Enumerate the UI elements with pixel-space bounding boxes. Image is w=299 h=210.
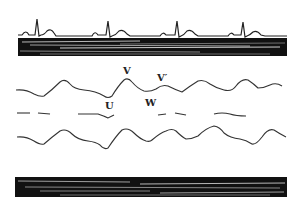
waveform-2 <box>17 113 246 118</box>
label-u: U <box>105 101 114 111</box>
bottom-timing-band <box>15 177 287 197</box>
label-v: V <box>123 66 131 76</box>
waveform-1 <box>16 79 282 98</box>
waveform-3 <box>17 126 286 149</box>
label-w: W <box>145 98 156 108</box>
top-timing-band <box>18 38 287 56</box>
label-v-prime: V′ <box>157 73 167 83</box>
ecg-trace <box>18 19 287 37</box>
waveform-figure: V V′ U W <box>0 0 299 210</box>
